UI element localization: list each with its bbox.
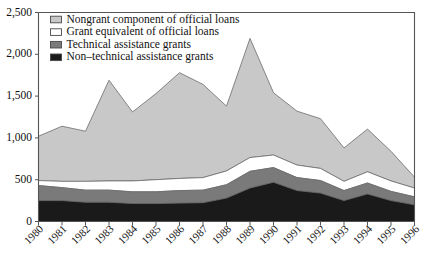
y-tick-label: 1,000 xyxy=(6,131,32,144)
legend-swatch-1 xyxy=(51,16,62,23)
legend-label-2: Grant equivalent of official loans xyxy=(67,25,220,38)
x-tick-label: 1984 xyxy=(115,222,139,246)
chart-canvas: 05001,0001,5002,0002,500 198019811982198… xyxy=(0,0,421,274)
y-tick-label: 1,500 xyxy=(6,89,32,102)
y-tick-label: 0 xyxy=(26,215,32,227)
x-tick-label: 1990 xyxy=(256,222,280,246)
y-tick-label: 500 xyxy=(15,173,33,185)
legend-swatch-2 xyxy=(51,29,62,36)
series-areas xyxy=(39,38,415,221)
chart-legend: Nongrant component of official loansGran… xyxy=(51,13,240,64)
y-tick-label: 2,500 xyxy=(6,6,32,19)
legend-label-1: Nongrant component of official loans xyxy=(67,13,240,26)
x-axis-ticks: 1980198119821983198419851986198719881989… xyxy=(21,222,421,247)
x-tick-label: 1992 xyxy=(303,222,327,246)
x-tick-label: 1989 xyxy=(233,222,257,246)
x-tick-label: 1980 xyxy=(21,222,45,246)
legend-swatch-4 xyxy=(51,54,62,61)
x-tick-label: 1987 xyxy=(186,222,210,246)
x-tick-label: 1986 xyxy=(162,222,186,246)
y-axis-ticks: 05001,0001,5002,0002,500 xyxy=(6,6,38,227)
y-tick-label: 2,000 xyxy=(6,47,32,60)
stacked-area-chart: 05001,0001,5002,0002,500 198019811982198… xyxy=(0,0,421,274)
x-tick-label: 1983 xyxy=(92,222,116,246)
x-tick-label: 1981 xyxy=(45,222,69,246)
x-tick-label: 1988 xyxy=(209,222,233,246)
x-tick-label: 1995 xyxy=(374,222,398,246)
legend-label-3: Technical assistance grants xyxy=(67,38,192,51)
legend-label-4: Non–technical assistance grants xyxy=(67,50,214,63)
x-tick-label: 1982 xyxy=(68,222,92,246)
x-tick-label: 1985 xyxy=(139,222,163,246)
x-tick-label: 1993 xyxy=(327,222,351,246)
x-tick-label: 1996 xyxy=(397,222,421,246)
x-tick-label: 1994 xyxy=(350,222,374,246)
legend-swatch-3 xyxy=(51,41,62,48)
x-tick-label: 1991 xyxy=(280,222,304,246)
